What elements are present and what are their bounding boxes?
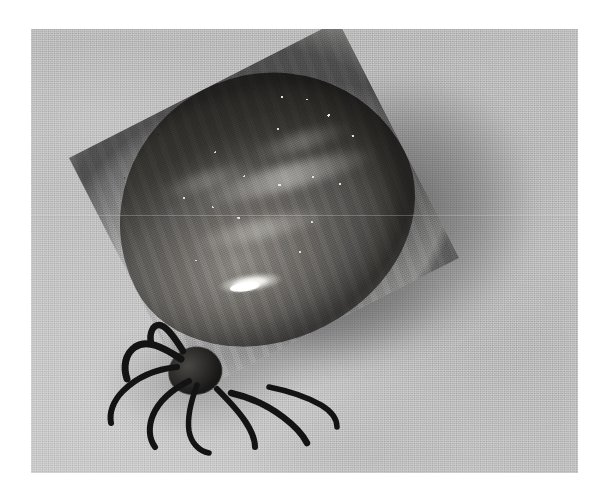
- leg-7: [269, 387, 337, 427]
- scan-seam-shadow: [31, 216, 578, 217]
- leg-group-left: [111, 325, 210, 453]
- photograph: [31, 29, 578, 473]
- leg-group-right: [217, 387, 337, 447]
- leg-4: [188, 385, 209, 453]
- page-root: [0, 0, 604, 501]
- leg-3: [150, 381, 189, 447]
- legs: [31, 29, 578, 473]
